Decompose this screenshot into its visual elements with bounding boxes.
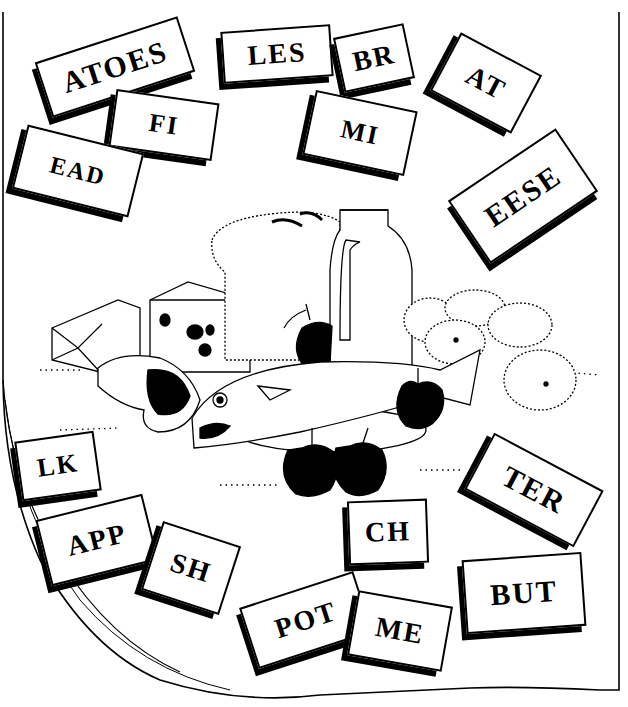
card-label: POT (271, 597, 340, 643)
card-label: TER (497, 461, 571, 519)
card-label: ME (373, 613, 426, 649)
card-label: MI (338, 116, 381, 149)
card-label: AT (461, 61, 510, 105)
card-label: FI (147, 110, 180, 140)
worksheet-page: ATOESLESBRATFIMIEADEESELKTERCHAPPSHBUTPO… (0, 0, 628, 707)
card-label: BR (350, 40, 398, 76)
card-label: APP (64, 519, 129, 561)
card-label: EESE (479, 160, 566, 232)
card-label: LES (247, 38, 308, 70)
card-label: SH (167, 548, 215, 587)
card-face: CH (347, 499, 429, 566)
card-face: LK (14, 431, 102, 502)
card-label: BUT (489, 576, 559, 611)
card-label: CH (365, 517, 412, 547)
card-face: LES (220, 24, 333, 84)
card-face: BUT (462, 552, 587, 634)
milk-jug-icon (330, 210, 412, 372)
card-label: LK (36, 450, 81, 482)
card-label: EAD (48, 152, 109, 189)
